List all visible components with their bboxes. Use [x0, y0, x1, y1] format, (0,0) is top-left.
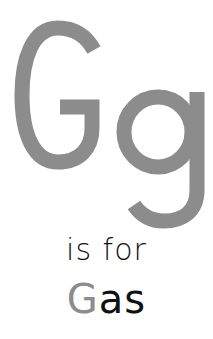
lowercase-g-glyph [124, 92, 197, 221]
alphabet-card: is for Gas [0, 0, 213, 339]
example-word-rest: as [99, 276, 146, 322]
letter-pair-graphic [0, 0, 213, 235]
caption-is-for: is for [0, 232, 213, 268]
uppercase-g-glyph [22, 28, 94, 162]
example-word-first-letter: G [67, 276, 99, 322]
big-letters [0, 0, 213, 235]
example-word: Gas [0, 276, 213, 322]
